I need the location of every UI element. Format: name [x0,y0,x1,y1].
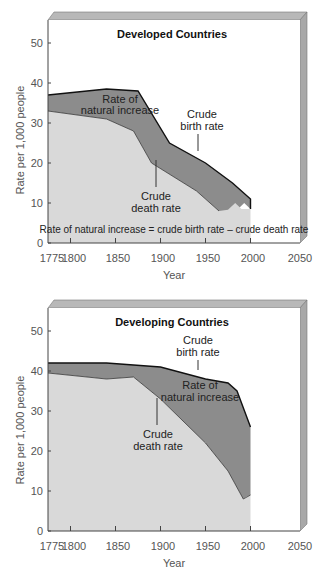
x-tick-label: 1775 [40,252,64,264]
y-tick-label: 50 [31,37,43,49]
y-axis-title: Rate per 1,000 people [14,376,26,485]
x-axis-title: Year [163,269,186,281]
y-tick-label: 30 [31,117,43,129]
y-axis-title: Rate per 1,000 people [14,86,26,195]
formula-note: Rate of natural increase = crude birth r… [40,224,309,235]
developed-countries-chart: 0 10 20 30 40 50 1775 1800 1850 1900 195… [0,0,329,290]
birth-rate-label-line1: Crude [183,334,213,346]
birth-rate-label-line2: birth rate [180,120,223,132]
death-rate-label-line1: Crude [143,428,173,440]
death-rate-label-line2: death rate [133,440,183,452]
chart-title: Developing Countries [115,316,229,328]
y-tick-label: 30 [31,405,43,417]
y-tick-label: 0 [37,525,43,537]
x-tick-label: 1900 [151,540,175,552]
birth-rate-label-line2: birth rate [176,346,219,358]
rni-label-line2: natural increase [161,391,239,403]
x-tick-label: 2050 [288,252,312,264]
y-tick-label: 20 [31,157,43,169]
chart-title: Developed Countries [117,28,227,40]
x-tick-label: 1775 [40,540,64,552]
developing-countries-chart: 0 10 20 30 40 50 1775 1800 1850 1900 195… [0,288,329,577]
x-tick-label: 2000 [241,252,265,264]
death-rate-label-line1: Crude [141,190,171,202]
frame-right-side [300,300,307,531]
y-tick-label: 20 [31,445,43,457]
x-tick-label: 1850 [106,540,130,552]
rni-label-line2: natural increase [81,104,159,116]
y-tick-label: 40 [31,365,43,377]
y-tick-label: 40 [31,77,43,89]
x-tick-label: 1950 [196,540,220,552]
x-tick-label: 1800 [62,540,86,552]
x-tick-label: 1800 [62,252,86,264]
birth-rate-label-line1: Crude [187,108,217,120]
y-tick-label: 50 [31,325,43,337]
x-tick-label: 2050 [288,540,312,552]
y-tick-label: 10 [31,485,43,497]
frame-right-side [300,12,307,243]
y-tick-label: 0 [37,237,43,249]
rni-label-line1: Rate of [182,379,218,391]
x-tick-label: 1900 [151,252,175,264]
frame-top-bevel [48,300,307,308]
x-axis-title: Year [163,557,186,569]
x-tick-label: 1950 [196,252,220,264]
frame-top-bevel [48,12,307,20]
x-tick-label: 2000 [241,540,265,552]
x-tick-label: 1850 [106,252,130,264]
death-rate-label-line2: death rate [131,202,181,214]
y-tick-label: 10 [31,197,43,209]
